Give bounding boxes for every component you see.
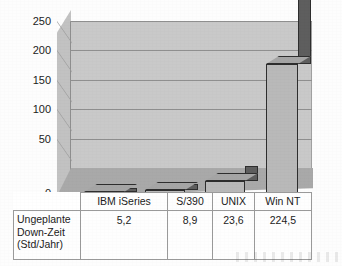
bar-s390 [145, 10, 185, 196]
table-row: Ungeplante Down-Zeit (Std/Jahr) 5,2 8,9 … [14, 211, 312, 260]
ytick-label-150: 150 [17, 75, 51, 86]
ytick-label-50: 50 [17, 134, 51, 145]
table-corner-cell [14, 193, 81, 211]
ytick-label-250: 250 [17, 16, 51, 27]
table-cell-win-nt: 224,5 [254, 211, 311, 260]
table-header-win-nt: Win NT [254, 193, 311, 211]
bar-win-nt [266, 10, 298, 196]
bar-ibm-iseries [84, 10, 124, 196]
ytick-label-100: 100 [17, 104, 51, 115]
bar-win-nt-front [266, 64, 298, 196]
table-cell-ibm-iseries: 5,2 [81, 211, 168, 260]
table-cell-s390: 8,9 [167, 211, 212, 260]
plot-area [57, 10, 312, 195]
table-cell-unix: 23,6 [213, 211, 255, 260]
table-header-s390: S/390 [167, 193, 212, 211]
bar-win-nt-side [298, 0, 311, 64]
ytick-label-200: 200 [17, 45, 51, 56]
chart-figure: 250 200 150 100 50 0 IBM iSeries S/390 U… [0, 0, 342, 266]
data-table: IBM iSeries S/390 UNIX Win NT Ungeplante… [13, 192, 312, 260]
table-header-ibm-iseries: IBM iSeries [81, 193, 168, 211]
bar-unix [205, 10, 245, 196]
table-row-label: Ungeplante Down-Zeit (Std/Jahr) [14, 211, 81, 260]
table-header-unix: UNIX [213, 193, 255, 211]
table-header-row: IBM iSeries S/390 UNIX Win NT [14, 193, 312, 211]
